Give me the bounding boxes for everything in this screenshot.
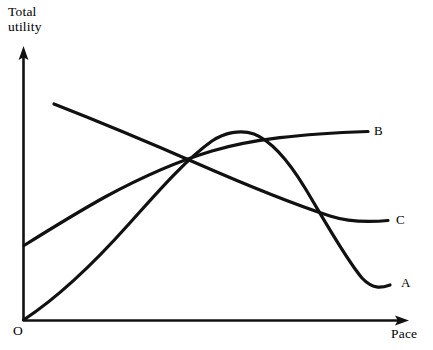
- curve-label-c: C: [396, 213, 405, 228]
- x-axis-label: Pace: [391, 326, 417, 341]
- chart-plot-area: [0, 0, 433, 350]
- curve-a-path: [24, 132, 391, 320]
- curve-label-a: A: [401, 276, 411, 291]
- origin-label: O: [13, 323, 23, 338]
- chart-figure: Totalutility Pace O A B C: [0, 0, 433, 350]
- y-axis-label-line2: utility: [8, 19, 42, 34]
- curve-label-b: B: [374, 124, 383, 139]
- y-axis-label-line1: Total: [8, 4, 37, 19]
- y-axis-label: Totalutility: [8, 4, 42, 34]
- curve-b-path: [24, 132, 368, 246]
- axes-group: [19, 46, 409, 325]
- curve-c-path: [54, 104, 388, 222]
